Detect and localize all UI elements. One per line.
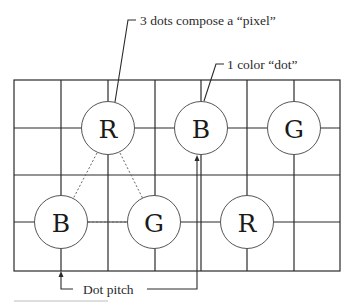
dotted-line <box>73 153 97 199</box>
dot-leader-line <box>204 64 224 101</box>
dot-bottom-1: B <box>35 196 88 249</box>
pixel-dot-diagram: R B G B G R 3 dots compose a “pixel” 1 c… <box>0 0 353 305</box>
dot-letter: B <box>192 115 210 144</box>
pitch-label: Dot pitch <box>83 282 134 297</box>
arrow-up-icon <box>59 271 64 277</box>
dot-top-2: B <box>175 102 228 155</box>
dot-callout: 1 color “dot” <box>204 57 297 102</box>
dot-bottom-2: G <box>128 196 181 249</box>
dot-label: 1 color “dot” <box>227 57 297 72</box>
dot-letter: G <box>144 209 164 238</box>
pixel-label: 3 dots compose a “pixel” <box>140 13 276 28</box>
dotted-line <box>120 153 143 199</box>
pitch-leader-left <box>61 276 73 289</box>
dot-letter: R <box>99 115 119 144</box>
dot-bottom-3: R <box>221 196 274 249</box>
dot-letter: B <box>52 209 70 238</box>
pixel-leader-line <box>115 20 136 102</box>
dot-top-1: R <box>82 102 135 155</box>
dot-letter: G <box>284 115 304 144</box>
dot-top-3: G <box>268 102 321 155</box>
arrow-up-icon <box>195 155 200 161</box>
dot-letter: R <box>238 209 258 238</box>
